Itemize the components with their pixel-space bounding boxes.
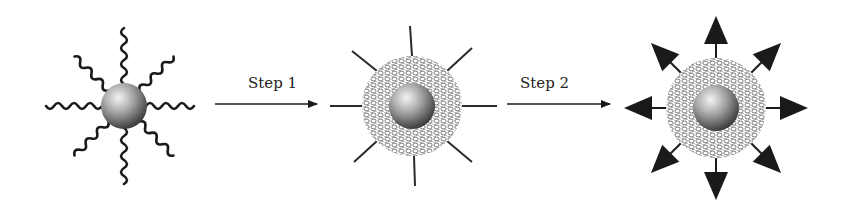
outward-arrow-icon	[704, 156, 728, 200]
wavy-chain-icon	[137, 119, 175, 157]
stage-1-particle	[46, 28, 194, 184]
stage-3-particle	[624, 16, 808, 200]
wavy-chain-icon	[146, 103, 194, 109]
step-1-label: Step 1	[248, 74, 297, 92]
outward-arrow-icon	[764, 96, 808, 120]
spoke-icon	[410, 26, 412, 56]
outward-arrow-icon	[624, 96, 668, 120]
stage-2-particle	[330, 26, 497, 186]
wavy-chain-icon	[46, 103, 102, 109]
core-sphere-icon	[693, 85, 739, 131]
outward-arrow-icon	[704, 16, 728, 60]
wavy-chain-icon	[121, 128, 127, 184]
diagram-canvas	[0, 0, 851, 208]
core-sphere-icon	[389, 83, 435, 129]
spoke-icon	[447, 48, 472, 71]
wavy-chain-icon	[121, 28, 127, 84]
wavy-chain-icon	[72, 119, 110, 157]
core-sphere-icon	[101, 83, 147, 129]
spoke-icon	[352, 51, 377, 71]
spoke-icon	[414, 156, 415, 186]
wavy-chain-icon	[137, 54, 175, 92]
wavy-chain-icon	[72, 54, 110, 92]
spoke-icon	[354, 141, 377, 162]
step-2-label: Step 2	[520, 74, 569, 92]
spoke-icon	[447, 141, 472, 162]
